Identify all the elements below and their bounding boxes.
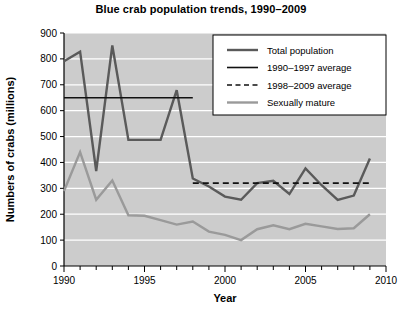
x-axis-tick-labels: 19901995200020052010 (53, 275, 398, 286)
y-tick-label: 600 (40, 105, 57, 116)
chart-container: Blue crab population trends, 1990–2009 0… (0, 0, 402, 326)
legend-label: 1998–2009 average (267, 80, 352, 91)
y-tick-label: 700 (40, 79, 57, 90)
x-tick-label: 2000 (214, 275, 237, 286)
y-tick-label: 900 (40, 28, 57, 39)
y-tick-label: 400 (40, 157, 57, 168)
chart-legend: Total population1990–1997 average1998–20… (213, 35, 386, 115)
x-tick-label: 2010 (375, 275, 398, 286)
y-tick-label: 300 (40, 183, 57, 194)
x-tick-label: 1990 (53, 275, 76, 286)
y-tick-label: 100 (40, 235, 57, 246)
legend-label: Total population (267, 45, 334, 56)
x-axis-ticks-group (64, 266, 386, 272)
x-tick-label: 1995 (133, 275, 156, 286)
y-tick-label: 200 (40, 209, 57, 220)
y-axis-tick-labels: 0100200300400500600700800900 (40, 28, 57, 272)
x-axis-title: Year (213, 292, 237, 304)
y-axis-title: Numbers of crabs (millions) (4, 76, 16, 222)
y-tick-label: 500 (40, 131, 57, 142)
x-tick-label: 2005 (294, 275, 317, 286)
legend-label: 1990–1997 average (267, 62, 352, 73)
chart-svg: 0100200300400500600700800900 19901995200… (0, 0, 402, 326)
y-tick-label: 800 (40, 53, 57, 64)
legend-label: Sexually mature (267, 97, 335, 108)
y-tick-label: 0 (51, 261, 57, 272)
